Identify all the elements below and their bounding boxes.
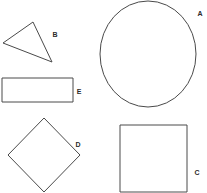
shapes-diagram-canvas: A B C D E (0, 0, 207, 193)
shape-label-e: E (77, 88, 82, 95)
square-shape-c (120, 125, 187, 192)
triangle-shape-b (3, 22, 52, 62)
shapes-diagram: A B C D E (0, 0, 207, 193)
shape-label-c: C (194, 169, 199, 176)
circle-shape-a (100, 1, 196, 107)
shape-label-a: A (197, 10, 202, 17)
rectangle-shape-e (2, 78, 73, 102)
shape-label-b: B (52, 31, 57, 38)
diamond-shape-d (8, 118, 80, 192)
shape-label-d: D (75, 141, 80, 148)
